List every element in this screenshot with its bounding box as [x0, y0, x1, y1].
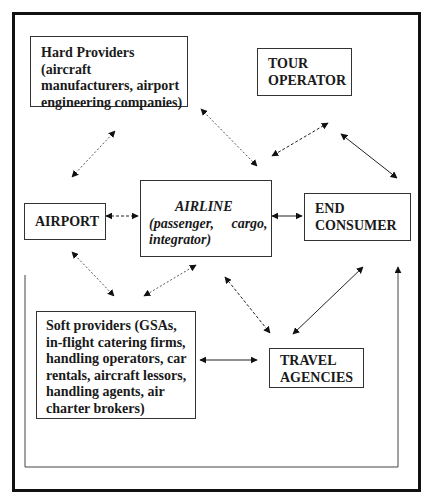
soft-providers-line-5: handling agents, air [46, 384, 186, 401]
soft-providers-line-1: Soft providers (GSAs, [46, 318, 186, 335]
soft-providers-line-6: charter brokers) [46, 401, 186, 418]
node-end-consumer: END CONSUMER [304, 193, 411, 241]
node-hard-providers: Hard Providers (aircraft manufacturers, … [30, 36, 188, 107]
travel-agencies-line-1: TRAVEL [280, 353, 353, 370]
hard-providers-line-3: engineering companies) [41, 95, 187, 112]
edge-hard-airport [72, 131, 115, 177]
airline-title: AIRLINE [149, 199, 267, 216]
edge-airline-travel [225, 277, 270, 333]
hard-providers-line-1: Hard Providers (aircraft [41, 45, 187, 78]
edge-airport-soft [72, 252, 114, 296]
node-airport: AIRPORT [24, 203, 106, 240]
node-travel-agencies: TRAVEL AGENCIES [269, 348, 364, 388]
node-airline: AIRLINE (passenger, cargo, integrator) [140, 180, 272, 257]
hard-providers-line-2: manufacturers, airport [41, 78, 187, 95]
tour-operator-line-2: OPERATOR [268, 73, 346, 90]
soft-providers-line-4: rentals, aircraft lessors, [46, 368, 186, 385]
node-tour-operator: TOUR OPERATOR [257, 48, 352, 96]
soft-providers-line-3: handling operators, car [46, 351, 186, 368]
airport-label: AIRPORT [35, 214, 99, 231]
end-consumer-line-1: END [315, 201, 397, 218]
node-soft-providers: Soft providers (GSAs, in-flight catering… [36, 311, 196, 419]
edge-tour-airline [272, 123, 328, 156]
travel-agencies-line-2: AGENCIES [280, 370, 353, 387]
end-consumer-line-2: CONSUMER [315, 218, 397, 235]
soft-providers-line-2: in-flight catering firms, [46, 335, 186, 352]
airline-line-1: (passenger, cargo, [149, 216, 267, 233]
edge-tour-consumer [341, 134, 397, 178]
tour-operator-line-1: TOUR [268, 56, 346, 73]
edge-hard-airline [201, 109, 257, 166]
airline-line-2: integrator) [149, 232, 267, 249]
edge-travel-consumer [293, 267, 363, 334]
edge-airline-soft [144, 265, 196, 296]
